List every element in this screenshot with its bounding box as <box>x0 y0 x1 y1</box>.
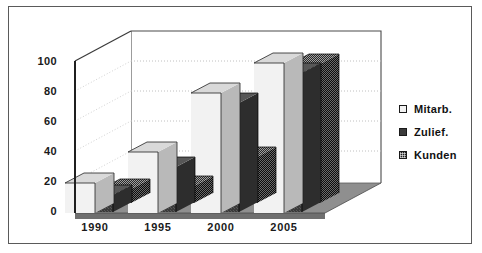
x-tick-1990: 1990 <box>65 221 125 233</box>
legend-swatch-zulief-icon <box>399 128 407 136</box>
x-tick-1995: 1995 <box>128 221 188 233</box>
x-tick-2000: 2000 <box>191 221 251 233</box>
x-tick-2005: 2005 <box>254 221 314 233</box>
legend-label-kunden: Kunden <box>414 149 457 161</box>
legend-label-zulief: Zulief. <box>414 126 449 138</box>
chart-legend: Mitarb. Zulief. Kunden <box>399 103 473 172</box>
legend-swatch-kunden-icon <box>399 151 407 159</box>
legend-item-mitarb: Mitarb. <box>399 103 473 115</box>
legend-item-kunden: Kunden <box>399 149 473 161</box>
legend-item-zulief: Zulief. <box>399 126 473 138</box>
legend-swatch-mitarb-icon <box>399 105 407 113</box>
chart-plot-area: 100 80 60 40 20 0 1990 1995 2000 2005 Mi… <box>9 7 473 245</box>
legend-label-mitarb: Mitarb. <box>414 103 452 115</box>
chart-frame: 100 80 60 40 20 0 1990 1995 2000 2005 Mi… <box>8 6 472 244</box>
